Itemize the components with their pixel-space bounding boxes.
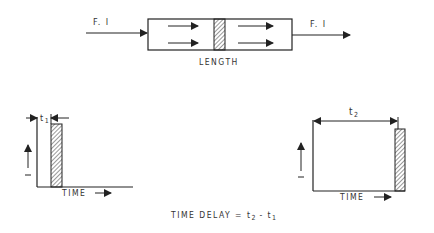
input-pulse-bar: [51, 124, 62, 187]
t1-label: t1: [40, 113, 49, 125]
time-axis-label: TIME: [339, 192, 364, 202]
output-pulse-chart: t2 TIME: [298, 106, 405, 202]
pipe-diagram: F. I F. I LENGTH: [86, 17, 350, 67]
inlet-label: F. I: [93, 17, 110, 27]
output-pulse-bar: [395, 129, 405, 191]
time-delay-diagram: F. I F. I LENGTH t1 TIME t2 TIM: [0, 0, 434, 233]
time-axis-label: TIME: [61, 188, 86, 198]
input-pulse-chart: t1 TIME: [25, 113, 133, 198]
t2-label: t2: [349, 106, 358, 119]
outlet-label: F. I: [310, 19, 327, 29]
length-label: LENGTH: [199, 57, 239, 67]
tracer-band: [214, 19, 225, 50]
time-delay-formula: TIME DELAY = t2 - t1: [170, 210, 276, 222]
